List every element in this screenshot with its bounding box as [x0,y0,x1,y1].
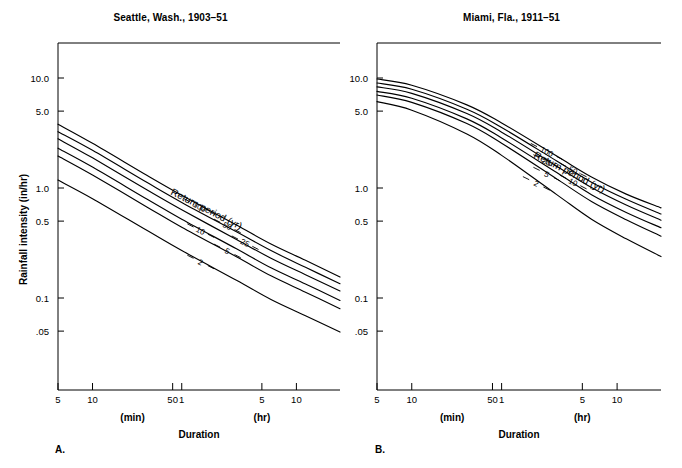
panel-letter-b: B. [375,444,385,455]
idf-curve [377,91,661,227]
idf-curve [377,79,661,208]
y-tick-label: .05 [355,326,368,337]
plot-seattle: 10.05.01.00.50.1.05510501510(min)(hr)Dur… [0,0,341,468]
x-tick-label: 1 [499,394,504,405]
x-tick-label: 1 [179,394,184,405]
curve-label-leader [554,178,560,181]
y-tick-label: 1.0 [355,183,368,194]
curve-label-leader [523,177,529,180]
y-tick-label: 0.5 [36,216,49,227]
x-tick-label: 5 [580,394,585,405]
y-tick-label: 1.0 [36,183,49,194]
x-tick-label: 5 [374,394,379,405]
figure-root: Seattle, Wash., 1903–51 10.05.01.00.50.1… [0,0,682,468]
idf-curve [377,87,661,220]
y-tick-label: 0.5 [355,216,368,227]
x-tick-label: 50 [487,394,498,405]
panel-miami: Miami, Fla., 1911–51 10.05.01.00.50.1.05… [341,0,682,468]
x-unit-minutes: (min) [120,412,144,423]
x-unit-minutes: (min) [440,412,464,423]
idf-curve [377,102,661,257]
y-tick-label: 10.0 [350,73,369,84]
y-tick-label: .05 [36,326,49,337]
panel-seattle: Seattle, Wash., 1903–51 10.05.01.00.50.1… [0,0,341,468]
x-tick-label: 10 [406,394,417,405]
idf-curve [377,95,661,236]
x-tick-label: 10 [87,394,98,405]
x-tick-label: 10 [612,394,623,405]
panel-letter-a: A. [55,444,65,455]
y-tick-label: 0.1 [355,293,368,304]
x-unit-hours: (hr) [254,412,271,423]
x-tick-label: 5 [259,394,264,405]
x-axis-label: Duration [178,429,219,440]
y-tick-label: 10.0 [31,73,50,84]
y-tick-label: 0.1 [36,293,49,304]
plot-miami: 10.05.01.00.50.1.05510501510(min)(hr)Dur… [341,0,682,468]
y-tick-label: 5.0 [355,106,368,117]
x-tick-label: 50 [167,394,178,405]
y-axis-label: Rainfall intensity (in/hr) [18,174,29,285]
x-tick-label: 10 [291,394,302,405]
x-tick-label: 5 [55,394,60,405]
x-unit-hours: (hr) [574,412,591,423]
y-tick-label: 5.0 [36,106,49,117]
curve-label-5: 5 [223,246,232,256]
idf-curve [58,139,340,291]
curve-label-2: 2 [532,179,541,189]
x-axis-label: Duration [498,429,539,440]
